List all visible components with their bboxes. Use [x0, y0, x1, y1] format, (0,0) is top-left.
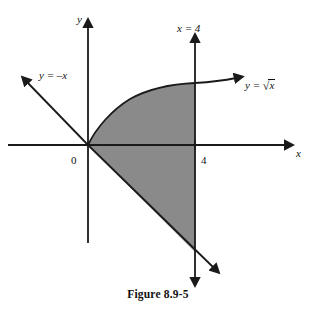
y-axis-label: y: [77, 14, 82, 25]
line-y-equals-neg-x-upper: [27, 82, 88, 145]
annotation-curve-radicand: x: [268, 79, 275, 92]
x-axis-label: x: [296, 148, 301, 159]
x-tick-label-4: 4: [201, 155, 207, 166]
origin-label: 0: [71, 155, 77, 166]
figure-container: y x 0 4 y = –x x = 4 y = √x Figure 8.9-5: [0, 0, 316, 310]
annotation-vertical-line: x = 4: [177, 23, 200, 34]
shaded-region: [88, 83, 195, 252]
annotation-curve-prefix: y =: [245, 79, 263, 91]
figure-graph: [0, 0, 316, 310]
radical-sign-icon: √: [263, 79, 270, 93]
figure-caption: Figure 8.9-5: [0, 288, 316, 300]
annotation-line-y-equals-neg-x: y = –x: [39, 70, 67, 81]
annotation-curve: y = √x: [245, 79, 275, 92]
